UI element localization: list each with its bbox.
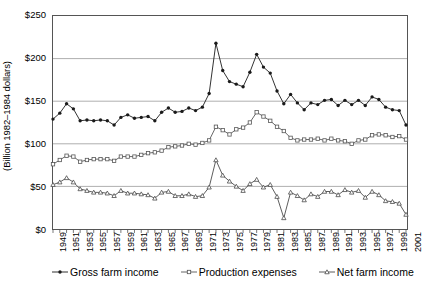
legend-marker-open-triangle-icon [319,267,335,277]
data-point-marker [370,189,374,193]
data-point-marker [207,185,211,189]
plot-area [52,15,408,230]
x-tick-label: 1961 [139,232,150,262]
data-point-marker [105,191,109,195]
x-tick-label: 1985 [303,232,314,262]
data-point-marker [167,146,170,149]
data-point-marker [92,119,95,122]
data-point-marker [85,188,89,192]
x-tick-label: 1965 [167,232,178,262]
legend-item[interactable]: Net farm income [319,266,414,278]
data-point-marker [357,139,360,142]
data-point-marker [214,42,217,45]
data-point-marker [323,139,326,142]
data-point-marker [391,135,394,138]
data-point-marker [64,176,68,180]
data-point-marker [106,119,109,122]
data-point-marker [58,180,62,184]
data-point-marker [72,155,75,158]
data-point-marker [377,193,381,197]
x-tick-label: 2001 [413,232,424,262]
x-tick-label: 1967 [180,232,191,262]
data-point-marker [384,105,387,108]
series-production-expenses [51,111,407,166]
data-point-marker [119,116,122,119]
data-point-marker [390,200,394,204]
data-point-marker [119,188,123,192]
data-point-marker [78,160,81,163]
data-point-marker [221,69,224,72]
legend-item-label: Net farm income [337,266,414,278]
data-point-marker [282,102,285,105]
data-point-marker [377,133,380,136]
legend-marker-open-square-icon [181,267,197,277]
data-point-marker [282,129,285,132]
data-point-marker [221,128,224,131]
data-point-marker [262,65,265,68]
data-point-marker [180,144,183,147]
data-point-marker [187,192,191,196]
data-point-marker [330,98,333,101]
data-point-marker [350,142,353,145]
data-point-marker [302,108,305,111]
data-point-marker [140,116,143,119]
data-point-marker [153,119,156,122]
y-axis-tick-labels: $250$200$150$100$50$0 [12,0,46,286]
data-point-marker [132,191,136,195]
x-tick-label: 1959 [126,232,137,262]
data-point-marker [106,157,109,160]
data-point-marker [174,111,177,114]
data-point-marker [254,177,258,181]
data-point-marker [309,138,312,141]
data-point-marker [336,104,339,107]
data-point-marker [248,182,252,186]
data-point-marker [398,134,401,137]
data-point-marker [65,102,68,105]
data-point-marker [166,189,170,193]
data-point-marker [404,123,407,126]
x-tick-label: 1987 [317,232,328,262]
data-point-marker [235,82,238,85]
data-point-marker [140,153,143,156]
data-point-marker [364,138,367,141]
data-point-marker [343,140,346,143]
data-point-marker [316,137,319,140]
data-point-marker [329,189,333,193]
y-tick-label: $150 [12,96,46,106]
data-point-marker [214,125,217,128]
data-point-marker [167,106,170,109]
legend-item-label: Gross farm income [70,266,159,278]
data-point-marker [65,154,68,157]
x-tick-label: 1963 [153,232,164,262]
data-point-marker [330,137,333,140]
data-point-marker [336,139,339,142]
data-point-marker [228,133,231,136]
data-point-marker [391,108,394,111]
data-point-marker [248,71,251,74]
data-point-marker [98,190,102,194]
data-point-marker [99,157,102,160]
data-point-marker [325,270,329,274]
data-point-marker [262,115,265,118]
data-point-marker [92,190,96,194]
x-tick-label: 1971 [208,232,219,262]
data-point-marker [289,93,292,96]
data-point-marker [119,155,122,158]
data-point-marker [194,109,197,112]
data-point-marker [295,194,299,198]
series-line [53,43,406,125]
data-point-marker [364,104,367,107]
data-point-marker [214,158,218,162]
data-point-marker [316,103,319,106]
legend-item[interactable]: Gross farm income [52,266,159,278]
data-point-marker [350,190,354,194]
data-point-marker [384,134,387,137]
data-point-marker [160,149,163,152]
data-point-marker [99,118,102,121]
data-point-marker [58,270,61,273]
legend-item[interactable]: Production expenses [181,266,297,278]
x-tick-label: 1981 [276,232,287,262]
legend-item-label: Production expenses [199,266,297,278]
x-tick-label: 1997 [385,232,396,262]
legend-marker-filled-circle-icon [52,267,68,277]
